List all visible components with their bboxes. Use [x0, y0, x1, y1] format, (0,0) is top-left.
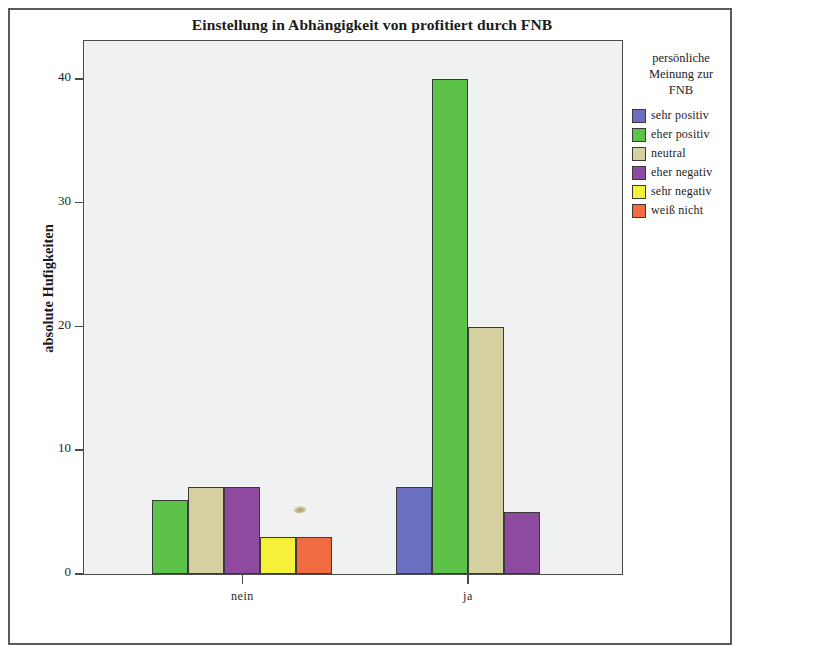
bar[interactable] — [152, 500, 188, 574]
bar[interactable] — [432, 79, 468, 574]
legend-title: persönlicheMeinung zurFNB — [632, 50, 730, 98]
figure-frame: Einstellung in Abhängigkeit von profitie… — [8, 8, 732, 645]
y-axis-tick-label: 10 — [58, 440, 71, 456]
plot-area: 010203040neinja — [83, 40, 623, 575]
bar[interactable] — [504, 512, 540, 574]
bar[interactable] — [468, 327, 504, 574]
y-axis-tick: 0 — [40, 573, 84, 574]
y-axis-tick: 20 — [40, 326, 84, 327]
chart-legend: persönlicheMeinung zurFNB sehr positiveh… — [632, 50, 730, 221]
legend-item[interactable]: weiß nicht — [632, 202, 730, 219]
legend-item[interactable]: sehr positiv — [632, 107, 730, 124]
legend-swatch-icon — [632, 128, 646, 142]
bar[interactable] — [260, 537, 296, 574]
chart-title: Einstellung in Abhängigkeit von profitie… — [10, 16, 734, 34]
legend-item[interactable]: eher positiv — [632, 126, 730, 143]
y-axis-tick-mark — [75, 573, 84, 575]
bar[interactable] — [188, 487, 224, 574]
y-axis-tick-label: 30 — [58, 193, 71, 209]
y-axis-tick-label: 0 — [65, 564, 72, 580]
legend-swatch-icon — [632, 204, 646, 218]
plot-inner: 010203040neinja — [84, 41, 622, 574]
legend-swatch-icon — [632, 166, 646, 180]
legend-swatch-icon — [632, 147, 646, 161]
y-axis-tick: 40 — [40, 78, 84, 79]
legend-item-label: sehr negativ — [651, 184, 712, 199]
bar[interactable] — [396, 487, 432, 574]
legend-title-line: Meinung zur — [632, 66, 730, 82]
legend-item[interactable]: neutral — [632, 145, 730, 162]
y-axis-tick-label: 40 — [58, 69, 71, 85]
legend-swatch-icon — [632, 109, 646, 123]
legend-items: sehr positiveher positivneutraleher nega… — [632, 107, 730, 219]
y-axis-tick: 10 — [40, 449, 84, 450]
y-axis-tick-mark — [75, 326, 84, 328]
legend-item-label: eher positiv — [651, 127, 710, 142]
legend-item-label: weiß nicht — [651, 203, 703, 218]
x-axis-tick-mark — [242, 573, 244, 584]
x-axis-tick-mark — [467, 573, 469, 584]
legend-item-label: neutral — [651, 146, 686, 161]
y-axis-tick-mark — [75, 78, 84, 80]
bar[interactable] — [224, 487, 260, 574]
y-axis-tick: 30 — [40, 202, 84, 203]
legend-title-line: persönliche — [632, 50, 730, 66]
y-axis-title: absolute Hufigkeiten — [40, 199, 57, 379]
y-axis-tick-label: 20 — [58, 317, 71, 333]
legend-item[interactable]: sehr negativ — [632, 183, 730, 200]
legend-item-label: eher negativ — [651, 165, 712, 180]
y-axis-tick-mark — [75, 449, 84, 451]
legend-item-label: sehr positiv — [651, 108, 709, 123]
y-axis-tick-mark — [75, 202, 84, 204]
legend-item[interactable]: eher negativ — [632, 164, 730, 181]
x-axis-tick-label: nein — [182, 589, 302, 604]
bar[interactable] — [296, 537, 332, 574]
legend-swatch-icon — [632, 185, 646, 199]
x-axis-tick-label: ja — [408, 589, 528, 604]
legend-title-line: FNB — [632, 82, 730, 98]
